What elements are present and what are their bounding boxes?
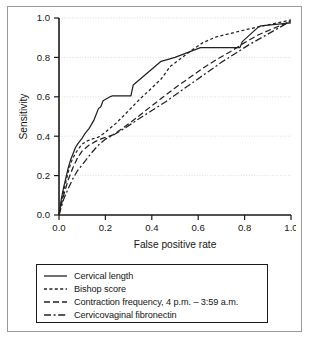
y-tick-label: 0.6 bbox=[37, 91, 50, 102]
legend-item: Cervical length bbox=[37, 269, 267, 282]
gridlines bbox=[59, 18, 291, 215]
y-tick-label: 0.2 bbox=[37, 170, 50, 181]
legend-line-solid-icon bbox=[43, 271, 68, 281]
series-line bbox=[59, 21, 291, 215]
plot-region: 0.00.20.40.60.81.00.00.20.40.60.81.0 Fal… bbox=[14, 10, 296, 255]
legend-item: Bishop score bbox=[37, 282, 267, 295]
legend-line-dashdot-icon bbox=[43, 310, 68, 320]
axis-ticks bbox=[54, 18, 291, 220]
series-line bbox=[59, 20, 291, 215]
legend-item: Cervicovaginal fibronectin bbox=[37, 308, 267, 321]
legend-label-bishop-score: Bishop score bbox=[74, 284, 126, 294]
x-axis-title: False positive rate bbox=[134, 239, 217, 250]
x-tick-label: 0.0 bbox=[52, 222, 65, 233]
axis-tick-labels: 0.00.20.40.60.81.00.00.20.40.60.81.0 bbox=[37, 12, 296, 233]
series-line bbox=[59, 23, 291, 215]
legend-line-dashed-icon bbox=[43, 297, 68, 307]
y-tick-label: 0.4 bbox=[37, 131, 51, 142]
data-series bbox=[59, 20, 291, 215]
legend-label-cervicovaginal-fibronectin: Cervicovaginal fibronectin bbox=[74, 310, 177, 320]
x-tick-label: 0.8 bbox=[238, 222, 251, 233]
legend-label-contraction-frequency: Contraction frequency, 4 p.m. – 3:59 a.m… bbox=[74, 297, 238, 307]
legend-label-cervical-length: Cervical length bbox=[74, 271, 133, 281]
y-axis-title: Sensitivity bbox=[18, 93, 29, 140]
y-tick-label: 1.0 bbox=[37, 12, 50, 23]
x-tick-label: 1.0 bbox=[284, 222, 296, 233]
axes bbox=[59, 18, 291, 215]
roc-chart: 0.00.20.40.60.81.00.00.20.40.60.81.0 Fal… bbox=[14, 10, 296, 255]
y-tick-label: 0.0 bbox=[37, 209, 50, 220]
x-tick-label: 0.2 bbox=[99, 222, 112, 233]
x-tick-label: 0.6 bbox=[192, 222, 205, 233]
chart-legend: Cervical length Bishop score Contraction… bbox=[36, 264, 268, 323]
x-tick-label: 0.4 bbox=[145, 222, 159, 233]
y-tick-label: 0.8 bbox=[37, 52, 50, 63]
legend-line-dotted-icon bbox=[43, 284, 68, 294]
roc-figure: 0.00.20.40.60.81.00.00.20.40.60.81.0 Fal… bbox=[0, 0, 309, 339]
legend-item: Contraction frequency, 4 p.m. – 3:59 a.m… bbox=[37, 295, 267, 308]
series-line bbox=[59, 21, 291, 215]
